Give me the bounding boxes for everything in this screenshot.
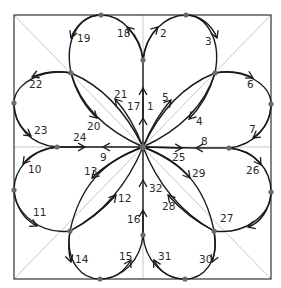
node-left-top-edge bbox=[11, 100, 16, 105]
step-label: 3 bbox=[205, 35, 212, 47]
step-label: 23 bbox=[34, 124, 47, 136]
step-label: 4 bbox=[196, 115, 203, 127]
node-top-left-edge bbox=[98, 12, 103, 17]
center-node bbox=[140, 144, 146, 150]
step-label: 8 bbox=[201, 135, 208, 147]
lobe-right-top bbox=[215, 72, 271, 148]
step-label: 18 bbox=[117, 27, 130, 39]
step-label: 6 bbox=[247, 78, 254, 90]
node-right-bottom-edge bbox=[268, 189, 273, 194]
lobe-left-bottom bbox=[14, 147, 70, 231]
step-label: 5 bbox=[162, 91, 169, 103]
node-bottom-left-edge bbox=[97, 276, 102, 281]
step-label: 1 bbox=[147, 100, 154, 112]
step-label: 27 bbox=[220, 212, 233, 224]
node-ne bbox=[212, 70, 217, 75]
node-bottom-inner bbox=[140, 232, 145, 237]
step-label: 2 bbox=[160, 27, 167, 39]
node-se bbox=[211, 228, 216, 233]
step-label: 31 bbox=[158, 250, 171, 262]
step-label: 19 bbox=[77, 32, 90, 44]
step-label: 9 bbox=[100, 151, 107, 163]
node-left-bottom-edge bbox=[11, 187, 16, 192]
step-label: 11 bbox=[33, 206, 46, 218]
node-left-inner bbox=[54, 144, 59, 149]
node-top-right-edge bbox=[183, 12, 188, 17]
step-label: 12 bbox=[118, 192, 131, 204]
step-label: 20 bbox=[87, 120, 100, 132]
step-label: 32 bbox=[149, 182, 162, 194]
node-top-inner bbox=[140, 57, 145, 62]
step-label: 10 bbox=[28, 163, 41, 175]
step-label: 17 bbox=[127, 100, 140, 112]
step-label: 28 bbox=[162, 200, 175, 212]
node-right-inner bbox=[226, 145, 231, 150]
step-label: 15 bbox=[119, 250, 132, 262]
segment-25 bbox=[143, 147, 182, 148]
step-label: 24 bbox=[73, 131, 87, 143]
node-bottom-right-edge bbox=[182, 276, 187, 281]
step-label: 22 bbox=[29, 78, 42, 90]
node-right-top-edge bbox=[268, 101, 273, 106]
step-label: 16 bbox=[127, 213, 141, 225]
step-label: 30 bbox=[199, 253, 212, 265]
node-sw bbox=[67, 228, 72, 233]
flower-path-diagram: 1234567891011121314151617181920212223242… bbox=[0, 0, 281, 288]
step-label: 14 bbox=[75, 253, 89, 265]
step-label: 26 bbox=[246, 164, 260, 176]
step-label: 13 bbox=[84, 165, 97, 177]
step-label: 29 bbox=[192, 167, 205, 179]
node-nw bbox=[68, 70, 73, 75]
step-label: 25 bbox=[172, 151, 185, 163]
step-label: 21 bbox=[114, 88, 127, 100]
step-label: 7 bbox=[249, 123, 256, 135]
